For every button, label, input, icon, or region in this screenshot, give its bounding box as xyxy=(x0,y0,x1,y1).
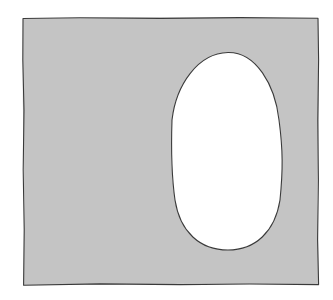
diagram-canvas xyxy=(0,0,333,300)
oval-hole-outline xyxy=(171,52,282,250)
square-with-hole-figure xyxy=(0,0,333,300)
